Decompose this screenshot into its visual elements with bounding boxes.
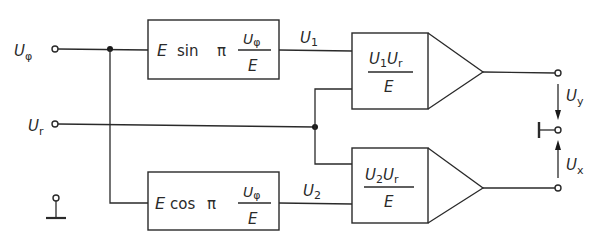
multiplier-1: U1Ur E xyxy=(352,33,483,109)
svg-text:E: E xyxy=(248,210,258,228)
svg-text:sin: sin xyxy=(177,42,199,60)
svg-text:π: π xyxy=(217,42,226,60)
u-r-label: Ur xyxy=(28,117,44,138)
u2-label: U2 xyxy=(303,182,321,202)
svg-text:π: π xyxy=(207,195,216,213)
u-r-terminal xyxy=(52,121,58,127)
input-u-phi: Uφ xyxy=(14,42,58,63)
u-y-label: Uy xyxy=(566,87,584,108)
u-x-label: Ux xyxy=(566,156,584,177)
svg-text:E: E xyxy=(248,57,258,75)
svg-text:E: E xyxy=(384,193,394,211)
ground-icon xyxy=(46,195,66,218)
u1-label: U1 xyxy=(300,29,318,49)
u-phi-terminal xyxy=(52,46,58,52)
sin-block: E sin π Uφ E xyxy=(148,20,279,79)
svg-text:cos: cos xyxy=(170,195,195,213)
multiplier-2: U2Ur E xyxy=(352,148,483,223)
arrow-up-icon xyxy=(555,140,561,150)
amplifier-2-icon xyxy=(428,148,483,223)
svg-text:E: E xyxy=(157,41,168,60)
cos-block: E cos π Uφ E xyxy=(148,172,279,230)
block-diagram: Uφ Ur E sin π Uφ E E cos π Uφ E U1 xyxy=(0,0,604,245)
u-phi-label: Uφ xyxy=(14,42,32,63)
input-u-r: Ur xyxy=(28,117,58,138)
svg-text:E: E xyxy=(384,78,394,96)
output-common-terminal xyxy=(555,127,561,133)
output-y-terminal xyxy=(555,70,561,76)
svg-text:E: E xyxy=(155,194,166,213)
amplifier-1-icon xyxy=(428,33,483,109)
output-x-terminal xyxy=(555,185,561,191)
arrow-down-icon xyxy=(555,110,561,120)
